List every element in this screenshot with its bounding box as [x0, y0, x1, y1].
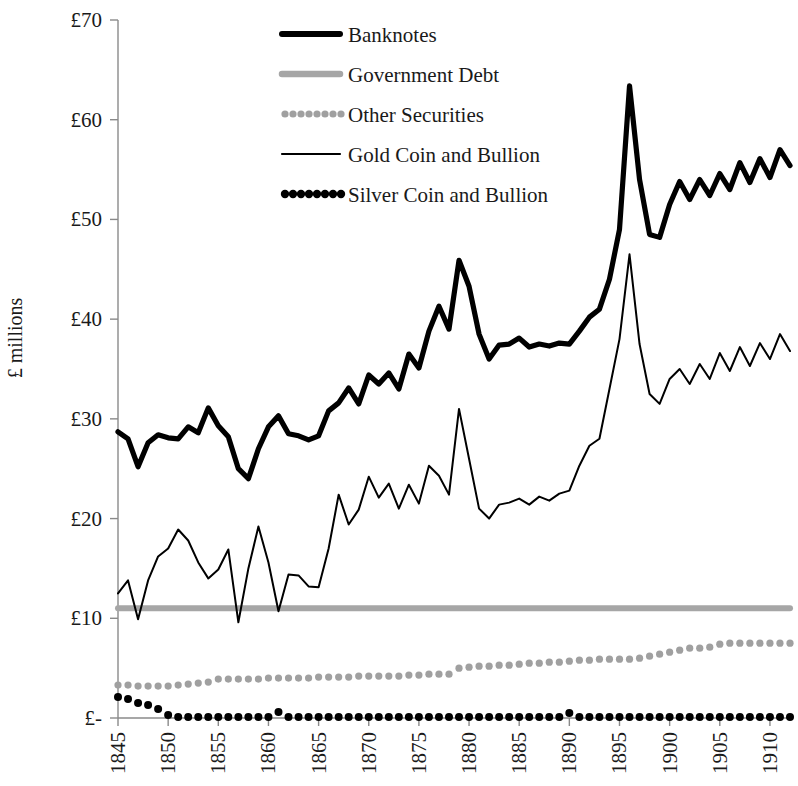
chart-legend: BanknotesGovernment DebtOther Securities…	[281, 23, 549, 207]
data-point	[576, 657, 583, 664]
x-tick-label: 1880	[457, 732, 481, 774]
data-point	[435, 713, 443, 721]
data-point	[616, 656, 623, 663]
data-point	[475, 663, 482, 670]
data-point	[716, 641, 723, 648]
legend-item-banknotes[interactable]: Banknotes	[282, 23, 437, 47]
data-point	[144, 682, 151, 689]
data-point	[515, 713, 523, 721]
data-point	[114, 693, 122, 701]
data-point	[606, 656, 613, 663]
data-point	[726, 640, 733, 647]
data-point	[586, 657, 593, 664]
data-point	[385, 713, 393, 721]
data-point	[355, 673, 362, 680]
legend-item-government-debt[interactable]: Government Debt	[282, 63, 499, 87]
data-point	[275, 675, 282, 682]
data-point	[305, 675, 312, 682]
data-point	[605, 713, 613, 721]
data-point	[485, 713, 493, 721]
data-point	[415, 672, 422, 679]
data-point	[425, 671, 432, 678]
data-point	[325, 674, 332, 681]
data-point	[185, 681, 192, 688]
data-point	[756, 713, 764, 721]
data-point	[495, 713, 503, 721]
line-chart: £ millions £70£60£50£40£30£20£10£- 18451…	[0, 0, 798, 786]
y-tick-label: £30	[71, 407, 103, 431]
data-point	[736, 713, 744, 721]
data-point	[626, 656, 633, 663]
data-point	[505, 713, 513, 721]
data-point	[445, 713, 453, 721]
data-point	[285, 713, 293, 721]
data-point	[546, 659, 553, 666]
x-tick-label: 1900	[658, 732, 682, 774]
data-point	[676, 647, 683, 654]
legend-label: Silver Coin and Bullion	[348, 183, 549, 207]
data-point	[144, 701, 152, 709]
data-point	[395, 673, 402, 680]
data-point	[164, 711, 172, 719]
chart-container: £ millions £70£60£50£40£30£20£10£- 18451…	[0, 0, 798, 786]
x-tick-label: 1895	[607, 732, 631, 774]
data-point	[486, 663, 493, 670]
data-point	[255, 676, 262, 683]
data-point	[686, 645, 693, 652]
data-point	[215, 676, 222, 683]
data-point	[245, 676, 252, 683]
data-point	[596, 656, 603, 663]
data-point	[274, 708, 282, 716]
data-point	[385, 673, 392, 680]
legend-label: Gold Coin and Bullion	[348, 143, 540, 167]
legend-item-other-securities[interactable]: Other Securities	[281, 103, 483, 127]
data-point	[525, 713, 533, 721]
data-point	[124, 695, 132, 703]
y-tick-label: £70	[71, 8, 103, 32]
data-point	[225, 676, 232, 683]
data-point	[746, 640, 753, 647]
data-point	[205, 679, 212, 686]
legend-label: Government Debt	[348, 63, 499, 87]
data-point	[776, 640, 783, 647]
legend-item-silver-coin-and-bullion[interactable]: Silver Coin and Bullion	[281, 183, 549, 207]
data-point	[214, 713, 222, 721]
data-point	[124, 681, 131, 688]
x-tick-label: 1885	[507, 732, 531, 774]
data-point	[566, 658, 573, 665]
data-point	[174, 713, 182, 721]
data-point	[315, 674, 322, 681]
data-point	[415, 713, 423, 721]
data-point	[535, 713, 543, 721]
data-point	[224, 713, 232, 721]
legend-swatch-icon	[281, 110, 344, 117]
data-point	[776, 713, 784, 721]
x-tick-label: 1865	[307, 732, 331, 774]
data-point	[254, 713, 262, 721]
data-point	[265, 675, 272, 682]
data-point	[425, 713, 433, 721]
data-point	[636, 655, 643, 662]
data-point	[285, 675, 292, 682]
data-point	[786, 640, 793, 647]
y-tick-label: £-	[85, 706, 103, 730]
data-point	[565, 709, 573, 717]
data-point	[646, 713, 654, 721]
data-point	[646, 653, 653, 660]
y-axis-title: £ millions	[4, 298, 26, 379]
legend-item-gold-coin-and-bullion[interactable]: Gold Coin and Bullion	[282, 143, 540, 167]
data-point	[165, 682, 172, 689]
data-point	[726, 713, 734, 721]
y-tick-label: £40	[71, 307, 103, 331]
y-axis-title-group: £ millions	[4, 298, 26, 379]
y-tick-label: £10	[71, 606, 103, 630]
data-point	[786, 713, 794, 721]
data-point	[536, 660, 543, 667]
x-tick-label: 1890	[557, 732, 581, 774]
x-tick-label: 1845	[106, 732, 130, 774]
data-point	[375, 713, 383, 721]
data-point	[435, 671, 442, 678]
data-point	[355, 713, 363, 721]
series-silver-coin-and-bullion	[114, 693, 794, 721]
data-point	[666, 649, 673, 656]
